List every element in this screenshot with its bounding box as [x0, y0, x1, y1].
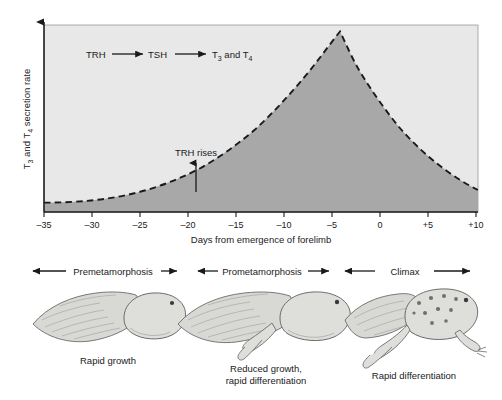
- froglet-forelimb: [455, 330, 480, 351]
- tadpole-eye: [170, 301, 174, 305]
- pathway-trh-label: TRH: [86, 49, 106, 60]
- x-tick-label: +10: [468, 220, 483, 230]
- x-tick-label: –35: [36, 220, 51, 230]
- x-tick-label: –15: [228, 220, 243, 230]
- caption-climax: Rapid differentiation: [372, 370, 456, 381]
- x-tick-label: –20: [180, 220, 195, 230]
- tadpole-body: [124, 293, 186, 339]
- froglet-body: [405, 289, 478, 340]
- metamorphosis-figure: –35 –30 –25 –20 –15 –10 –5 0 +5 +10 Days…: [0, 0, 502, 400]
- froglet-eye: [464, 298, 468, 302]
- pathway-tsh-label: TSH: [148, 49, 167, 60]
- x-tick-label: 0: [377, 220, 382, 230]
- caption-premetamorphosis: Rapid growth: [80, 355, 136, 366]
- x-tick-label: –5: [327, 220, 337, 230]
- organism-tadpole-hindlimbs: [178, 292, 350, 360]
- y-axis-title-rest: secretion rate: [21, 69, 32, 129]
- stage-bars: Premetamorphosis Prometamorphosis Climax: [33, 266, 470, 277]
- x-tick-label: –10: [276, 220, 291, 230]
- stage-captions: Rapid growth Reduced growth, rapid diffe…: [80, 355, 456, 386]
- caption-prometamorphosis-line1: Reduced growth,: [230, 363, 302, 374]
- svg-text:T3 and T4 secretion rate: T3 and T4 secretion rate: [21, 69, 34, 170]
- tadpole2-eye: [335, 300, 339, 304]
- trh-rises-label: TRH rises: [175, 147, 217, 158]
- figure-canvas: –35 –30 –25 –20 –15 –10 –5 0 +5 +10 Days…: [0, 0, 502, 400]
- caption-prometamorphosis-line2: rapid differentiation: [226, 375, 307, 386]
- x-axis-tick-labels: –35 –30 –25 –20 –15 –10 –5 0 +5 +10: [36, 220, 483, 230]
- x-axis-title: Days from emergence of forelimb: [191, 234, 331, 245]
- y-axis-title: T3 and T4 secretion rate: [21, 69, 34, 170]
- organism-tadpole-early: [33, 292, 186, 342]
- x-tick-label: –30: [84, 220, 99, 230]
- stage-premetamorphosis: Premetamorphosis: [33, 266, 177, 277]
- stage-label-climax: Climax: [390, 266, 419, 277]
- stage-climax: Climax: [345, 266, 470, 277]
- stage-label-prometamorphosis: Prometamorphosis: [222, 266, 302, 277]
- tadpole2-body: [280, 292, 350, 341]
- tadpole2-tail-fin: [178, 292, 294, 343]
- stage-label-premetamorphosis: Premetamorphosis: [73, 266, 153, 277]
- y-axis-title-and: and T: [21, 133, 32, 160]
- organism-froglet-four-limbs: [345, 289, 487, 368]
- x-tick-label: +5: [423, 220, 433, 230]
- stage-prometamorphosis: Prometamorphosis: [198, 266, 329, 277]
- x-tick-label: –25: [132, 220, 147, 230]
- chart-plot-area: –35 –30 –25 –20 –15 –10 –5 0 +5 +10 Days…: [21, 22, 484, 245]
